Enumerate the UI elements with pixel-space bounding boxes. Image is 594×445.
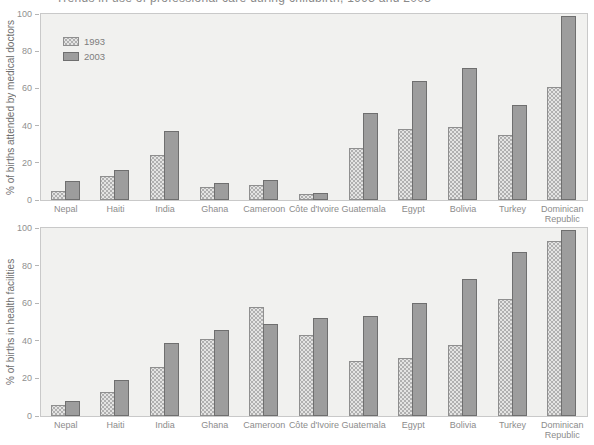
bar-1993-guatemala	[349, 148, 364, 200]
x-label-india: India	[137, 204, 193, 214]
bar-1993-egypt	[398, 129, 413, 200]
x-label-turkey: Turkey	[485, 420, 541, 430]
plot-area-facilities	[40, 227, 588, 417]
bar-1993-india	[150, 155, 165, 200]
x-label-guatemala: Guatemala	[336, 204, 392, 214]
y-tick-label-20: 20	[6, 158, 32, 168]
bar-1993-turkey	[498, 135, 513, 200]
y-tick-label-80: 80	[6, 261, 32, 271]
y-tick-label-80: 80	[6, 46, 32, 56]
x-label-egypt: Egypt	[385, 420, 441, 430]
bar-2003-turkey	[512, 252, 527, 416]
y-tick-mark-20	[35, 378, 39, 379]
bar-1993-nepal	[51, 191, 66, 200]
y-tick-mark-80	[35, 51, 39, 52]
bar-2003-ghana	[214, 330, 229, 416]
x-label-c-te-d-ivoire: Côte d'Ivoire	[286, 204, 342, 214]
y-axis-label-facilities: % of births in health facilities	[2, 227, 18, 417]
bar-2003-cameroon	[263, 324, 278, 416]
y-tick-mark-60	[35, 303, 39, 304]
bar-1993-guatemala	[349, 361, 364, 416]
y-tick-label-40: 40	[6, 336, 32, 346]
y-tick-mark-100	[35, 14, 39, 15]
bar-2003-c-te-d-ivoire	[313, 193, 328, 200]
y-tick-label-40: 40	[6, 121, 32, 131]
bar-2003-c-te-d-ivoire	[313, 318, 328, 416]
bar-1993-turkey	[498, 299, 513, 416]
legend-swatch-2003	[63, 52, 79, 61]
bar-2003-bolivia	[462, 279, 477, 416]
x-label-ghana: Ghana	[187, 420, 243, 430]
bar-2003-nepal	[65, 401, 80, 416]
y-tick-label-0: 0	[6, 411, 32, 421]
y-tick-label-100: 100	[6, 9, 32, 19]
legend-item-1993: 1993	[63, 36, 105, 47]
bar-2003-turkey	[512, 105, 527, 200]
x-label-bolivia: Bolivia	[435, 204, 491, 214]
bar-1993-cameroon	[249, 185, 264, 200]
bar-2003-egypt	[412, 303, 427, 416]
bar-1993-bolivia	[448, 127, 463, 200]
plot-area-doctors: 1993 2003	[40, 13, 588, 201]
bar-1993-c-te-d-ivoire	[299, 194, 314, 200]
y-tick-mark-40	[35, 340, 39, 341]
bar-2003-haiti	[114, 380, 129, 416]
y-tick-mark-40	[35, 125, 39, 126]
legend: 1993 2003	[63, 36, 105, 66]
y-tick-mark-60	[35, 88, 39, 89]
x-label-india: India	[137, 420, 193, 430]
bar-1993-c-te-d-ivoire	[299, 335, 314, 416]
bar-1993-bolivia	[448, 345, 463, 416]
bar-1993-india	[150, 367, 165, 416]
x-label-dominican-republic: Dominican Republic	[534, 204, 590, 224]
bar-1993-dominican-republic	[547, 87, 562, 200]
bar-2003-guatemala	[363, 316, 378, 416]
bar-2003-haiti	[114, 170, 129, 200]
y-tick-label-0: 0	[6, 195, 32, 205]
x-label-c-te-d-ivoire: Côte d'Ivoire	[286, 420, 342, 430]
bar-2003-dominican-republic	[561, 16, 576, 200]
x-label-haiti: Haiti	[87, 204, 143, 214]
bar-2003-ghana	[214, 183, 229, 200]
y-tick-mark-0	[35, 416, 39, 417]
legend-item-2003: 2003	[63, 51, 105, 62]
y-axis-label-doctors: % of births attended by medical doctors	[2, 13, 18, 201]
bar-1993-ghana	[200, 339, 215, 416]
x-label-nepal: Nepal	[38, 204, 94, 214]
bar-2003-bolivia	[462, 68, 477, 200]
y-tick-mark-80	[35, 265, 39, 266]
legend-label-2003: 2003	[84, 51, 105, 62]
bar-1993-ghana	[200, 187, 215, 200]
x-label-nepal: Nepal	[38, 420, 94, 430]
bar-2003-egypt	[412, 81, 427, 200]
x-label-turkey: Turkey	[485, 204, 541, 214]
x-label-bolivia: Bolivia	[435, 420, 491, 430]
bar-1993-egypt	[398, 358, 413, 416]
x-label-cameroon: Cameroon	[236, 204, 292, 214]
bar-1993-cameroon	[249, 307, 264, 416]
legend-label-1993: 1993	[84, 36, 105, 47]
x-label-ghana: Ghana	[187, 204, 243, 214]
y-tick-label-60: 60	[6, 298, 32, 308]
bar-2003-dominican-republic	[561, 230, 576, 416]
y-tick-mark-20	[35, 162, 39, 163]
legend-swatch-1993	[63, 37, 79, 46]
bar-2003-cameroon	[263, 180, 278, 200]
clipped-title-text: Trends in use of professional care durin…	[56, 0, 536, 5]
y-tick-label-20: 20	[6, 373, 32, 383]
y-tick-mark-0	[35, 200, 39, 201]
x-label-haiti: Haiti	[87, 420, 143, 430]
y-tick-label-60: 60	[6, 83, 32, 93]
x-label-guatemala: Guatemala	[336, 420, 392, 430]
bar-2003-nepal	[65, 181, 80, 200]
bar-1993-dominican-republic	[547, 241, 562, 416]
x-label-egypt: Egypt	[385, 204, 441, 214]
bar-2003-india	[164, 343, 179, 416]
x-label-dominican-republic: Dominican Republic	[534, 420, 590, 440]
clipped-title: Trends in use of professional care durin…	[56, 0, 536, 8]
x-label-cameroon: Cameroon	[236, 420, 292, 430]
bar-1993-haiti	[100, 392, 115, 416]
bar-2003-guatemala	[363, 113, 378, 200]
bar-1993-nepal	[51, 405, 66, 416]
y-tick-mark-100	[35, 228, 39, 229]
